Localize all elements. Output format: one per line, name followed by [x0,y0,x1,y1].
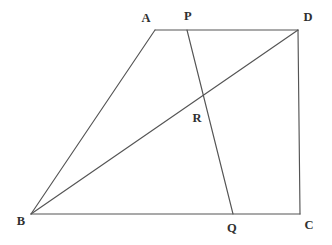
figure-canvas [0,0,332,245]
vertex-label-b: B [17,215,26,228]
vertex-label-c: C [304,219,313,232]
vertex-label-p: P [184,10,192,23]
geometry-figure: A P D R B Q C [0,0,332,245]
vertex-label-q: Q [227,222,237,235]
vertex-label-a: A [141,12,150,25]
segment-bd-diagonal [31,30,298,214]
vertex-label-r: R [192,112,201,125]
segment-ab [31,30,155,214]
segment-dc [298,30,300,214]
vertex-label-d: D [303,11,312,24]
